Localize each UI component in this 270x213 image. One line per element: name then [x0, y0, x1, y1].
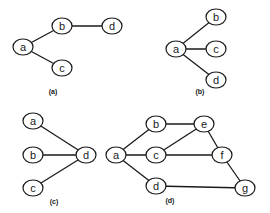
- node-c-d: d: [76, 147, 96, 163]
- node-d-e: e: [194, 116, 214, 132]
- node-label: c: [153, 149, 159, 161]
- node-a-a: a: [13, 39, 33, 55]
- node-label: e: [201, 118, 207, 130]
- node-a-d: d: [102, 18, 122, 34]
- node-b-a: a: [166, 41, 186, 57]
- caption-a: (a): [49, 88, 58, 96]
- node-label: d: [213, 74, 219, 86]
- node-c-b: b: [23, 147, 43, 163]
- caption-b: (b): [196, 88, 205, 96]
- node-label: d: [109, 20, 115, 32]
- node-label: c: [213, 43, 219, 55]
- node-d-c: c: [146, 147, 166, 163]
- node-label: b: [59, 20, 65, 32]
- node-d-b: b: [146, 116, 166, 132]
- node-d-d: d: [146, 178, 166, 194]
- node-b-d: d: [206, 72, 226, 88]
- node-label: b: [213, 11, 219, 23]
- node-label: a: [173, 43, 180, 55]
- node-label: a: [30, 115, 37, 127]
- node-a-b: b: [52, 18, 72, 34]
- node-label: b: [30, 149, 36, 161]
- node-c-c: c: [23, 180, 43, 196]
- node-label: b: [153, 118, 159, 130]
- node-label: d: [153, 180, 159, 192]
- node-label: c: [59, 62, 65, 74]
- caption-d: (d): [166, 197, 175, 205]
- node-b-b: b: [206, 9, 226, 25]
- node-label: c: [30, 182, 36, 194]
- node-label: a: [20, 41, 27, 53]
- node-c-a: a: [23, 113, 43, 129]
- node-d-g: g: [235, 180, 255, 196]
- node-a-c: c: [52, 60, 72, 76]
- node-b-c: c: [206, 41, 226, 57]
- node-label: g: [242, 182, 248, 194]
- nodes-layer: abcdabcdabcdabcdefg: [13, 9, 255, 196]
- node-label: d: [83, 149, 89, 161]
- caption-c: (c): [50, 198, 59, 206]
- node-d-a: a: [106, 147, 126, 163]
- node-label: a: [113, 149, 120, 161]
- edge-d-d-g: [156, 186, 245, 188]
- diagram-canvas: abcdabcdabcdabcdefg (a)(b)(c)(d): [0, 0, 270, 213]
- node-d-f: f: [212, 147, 232, 163]
